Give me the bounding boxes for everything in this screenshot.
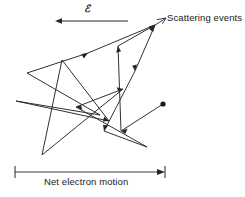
electron-drift-figure: ℰ Scattering events Net electron motion bbox=[0, 0, 245, 197]
scattering-events-leader bbox=[155, 18, 167, 26]
net-electron-motion-label: Net electron motion bbox=[44, 177, 128, 187]
electron-start-dot bbox=[160, 101, 165, 106]
scattering-events-label: Scattering events bbox=[167, 13, 242, 23]
electron-scattering-path bbox=[16, 25, 163, 155]
electric-field-label: ℰ bbox=[84, 4, 90, 14]
electric-field-arrow bbox=[55, 18, 128, 24]
figure-canvas bbox=[0, 0, 245, 197]
